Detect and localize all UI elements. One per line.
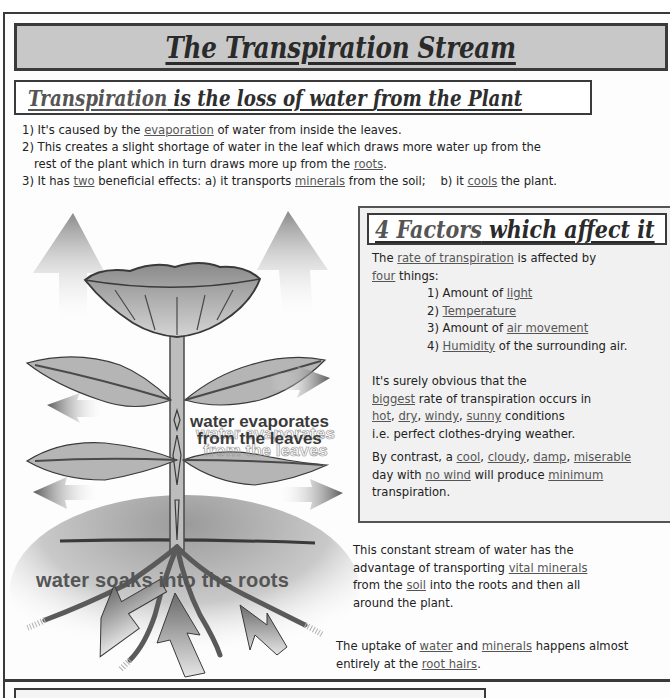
term-minerals: minerals xyxy=(295,174,345,188)
factor-item: 1) Amount of light xyxy=(372,285,668,303)
uptake-paragraph: The uptake of water and minerals happens… xyxy=(336,638,666,673)
factor-item: 3) Amount of air movement xyxy=(372,320,668,338)
term-rate-of-transpiration: rate of transpiration xyxy=(397,251,514,265)
evap-arrow-lower-right-icon xyxy=(277,479,343,510)
factors-title: 4 Factors which affect it xyxy=(375,215,655,244)
factors-body: The rate of transpiration is affected by… xyxy=(372,250,668,502)
factor-item: 4) Humidity of the surrounding air. xyxy=(372,338,668,356)
intro-point-3: 3) It has two beneficial effects: a) it … xyxy=(22,173,662,190)
definition-heading: Transpiration is the loss of water from … xyxy=(28,85,522,111)
vapour-arrow-left-icon xyxy=(33,213,105,325)
leaf-lower-left-icon xyxy=(27,443,177,480)
title-banner: The Transpiration Stream xyxy=(14,23,668,71)
section-divider xyxy=(3,679,670,682)
stem xyxy=(170,335,184,550)
term-cools: cools xyxy=(467,174,497,188)
biggest-rate-paragraph: It's surely obvious that the biggest rat… xyxy=(372,373,668,443)
leaf-upper-left-icon xyxy=(27,357,171,407)
term-two: two xyxy=(73,174,94,188)
next-section-banner xyxy=(14,688,486,698)
minimum-rate-paragraph: By contrast, a cool, cloudy, damp, miser… xyxy=(372,449,668,502)
vapour-arrow-right-icon xyxy=(257,211,328,321)
definition-banner: Transpiration is the loss of water from … xyxy=(14,80,592,115)
intro-point-2-cont: rest of the plant which in turn draws mo… xyxy=(22,156,662,173)
term-roots: roots xyxy=(354,157,383,171)
evap-arrow-lower-left-icon xyxy=(33,477,100,509)
flower-icon xyxy=(85,263,260,337)
intro-points: 1) It's caused by the evaporation of wat… xyxy=(22,122,662,190)
intro-point-2: 2) This creates a slight shortage of wat… xyxy=(22,139,662,156)
page-title: The Transpiration Stream xyxy=(166,30,516,65)
evaporates-label: water evaporates from the leaves xyxy=(190,413,329,447)
term-evaporation: evaporation xyxy=(144,123,214,137)
term-four: four xyxy=(372,269,395,283)
roots-label: water soaks into the roots xyxy=(36,569,289,592)
factors-title-box: 4 Factors which affect it xyxy=(367,213,667,245)
factor-item: 2) Temperature xyxy=(372,303,668,321)
stream-paragraph: This constant stream of water has the ad… xyxy=(353,542,663,612)
definition-term: Transpiration xyxy=(28,85,167,111)
intro-point-1: 1) It's caused by the evaporation of wat… xyxy=(22,122,662,139)
